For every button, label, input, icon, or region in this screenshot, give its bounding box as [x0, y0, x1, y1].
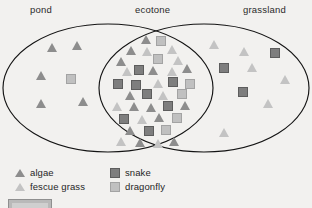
square-icon: [109, 168, 121, 178]
venn-ellipses: [0, 14, 312, 162]
legend: algae snake fescue grass dragonfly: [14, 166, 304, 194]
legend-item-fescue-grass: fescue grass: [14, 180, 109, 193]
grassland-ellipse: [99, 24, 309, 152]
legend-label-fescue-grass: fescue grass: [30, 181, 85, 192]
triangle-icon: [14, 169, 26, 177]
cropped-bottom-widget-inner: [12, 203, 48, 208]
legend-row: algae snake: [14, 166, 304, 179]
cropped-bottom-widget: [8, 199, 52, 208]
legend-row: fescue grass dragonfly: [14, 180, 304, 193]
venn-diagram-figure: pond ecotone grassland algae snake: [0, 0, 312, 208]
legend-item-algae: algae: [14, 166, 109, 179]
legend-label-algae: algae: [30, 167, 54, 178]
legend-item-snake: snake: [109, 166, 151, 179]
legend-item-dragonfly: dragonfly: [109, 180, 165, 193]
square-icon: [109, 182, 121, 192]
legend-label-dragonfly: dragonfly: [125, 181, 165, 192]
legend-label-snake: snake: [125, 167, 151, 178]
triangle-icon: [14, 183, 26, 191]
pond-ellipse: [3, 24, 213, 152]
